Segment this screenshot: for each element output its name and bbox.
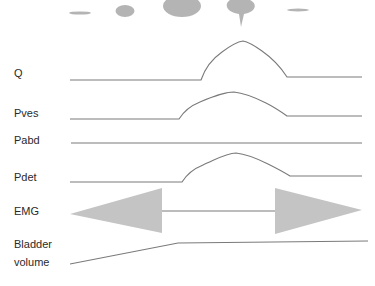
bladder-label: Bladder — [14, 238, 52, 251]
stream-stage-3 — [163, 0, 201, 17]
flow-stream-stages — [69, 0, 309, 27]
bladder-volume-trace — [70, 241, 368, 264]
urodynamic-diagram — [0, 0, 375, 286]
q-label: Q — [14, 67, 23, 80]
stream-stage-1 — [69, 11, 91, 14]
pves-label: Pves — [14, 107, 38, 120]
stream-stage-5 — [287, 9, 309, 12]
q-trace — [70, 41, 362, 80]
emg-filling-activity — [70, 188, 162, 233]
pdet-trace — [70, 153, 362, 182]
volume-label: volume — [14, 256, 49, 269]
emg-post-void-activity — [275, 188, 362, 234]
pabd-label: Pabd — [14, 134, 40, 147]
emg-label: EMG — [14, 205, 39, 218]
pdet-label: Pdet — [14, 171, 37, 184]
stream-stage-2 — [116, 5, 135, 17]
pves-trace — [70, 92, 362, 119]
stream-stage-4 — [227, 0, 255, 27]
